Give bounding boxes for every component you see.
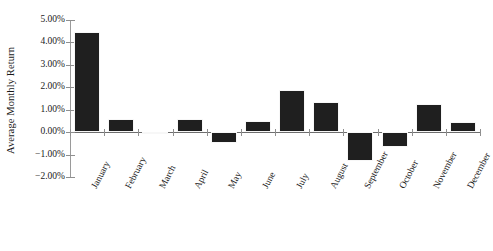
x-axis-tick-mark (241, 129, 242, 136)
bar (313, 102, 339, 132)
bar (245, 121, 271, 132)
bar (142, 132, 168, 134)
y-axis-tick-label: 2.00% (40, 83, 65, 93)
y-axis-tick-label: 3.00% (40, 60, 65, 70)
bar (382, 132, 408, 147)
y-axis-tick-labels: 5.00%4.00%3.00%2.00%1.00%0.00%−1.00%−2.0… (20, 0, 68, 200)
y-axis-tick-label: −1.00% (35, 150, 65, 160)
bar (108, 119, 134, 132)
y-axis-title: Average Monthly Return (0, 0, 20, 200)
bar (347, 132, 373, 161)
x-axis-tick-mark (70, 129, 71, 136)
y-axis-tick-label: 0.00% (40, 127, 65, 137)
x-axis-tick-mark (275, 129, 276, 136)
y-axis-title-text: Average Monthly Return (5, 47, 16, 154)
y-axis-tick-mark (66, 177, 75, 178)
y-axis-tick-label: 5.00% (40, 15, 65, 25)
bar (279, 90, 305, 133)
bar (416, 104, 442, 132)
bar (74, 32, 100, 132)
y-axis-tick-mark (66, 20, 75, 21)
x-axis-tick-mark (207, 129, 208, 136)
x-axis-tick-mark (104, 129, 105, 136)
y-axis-tick-label: 4.00% (40, 38, 65, 48)
y-axis-tick-label: −2.00% (35, 172, 65, 182)
bar (211, 132, 237, 143)
x-axis-tick-mark (309, 129, 310, 136)
x-axis-tick-mark (343, 129, 344, 136)
x-axis-tick-mark (378, 129, 379, 136)
y-axis-line (70, 20, 71, 177)
x-axis-tick-mark (446, 129, 447, 136)
x-axis-tick-mark (173, 129, 174, 136)
x-axis-tick-labels: JanuaryFebruaryMarchAprilMayJuneJulyAugu… (70, 186, 480, 251)
bar (177, 119, 203, 132)
x-axis-tick-mark (412, 129, 413, 136)
y-axis-tick-mark (66, 155, 75, 156)
y-axis-tick-label: 1.00% (40, 105, 65, 115)
bar (450, 122, 476, 132)
x-axis-tick-mark (138, 129, 139, 136)
x-axis-tick-mark (480, 129, 481, 136)
